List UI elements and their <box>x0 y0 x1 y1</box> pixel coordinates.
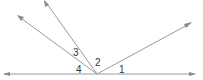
arrowhead-right-icon <box>189 72 196 76</box>
arrowhead-left-icon <box>3 72 10 76</box>
ray-steep <box>45 1 97 74</box>
arrowhead-right-upper-icon <box>184 22 192 28</box>
ray-right <box>97 23 191 74</box>
angle-label-3: 3 <box>73 47 79 58</box>
angle-diagram: 1 2 3 4 <box>0 0 203 80</box>
ray-left-upper <box>18 16 97 74</box>
angle-label-2: 2 <box>95 57 101 68</box>
angle-label-1: 1 <box>119 64 125 75</box>
angle-label-4: 4 <box>76 64 82 75</box>
